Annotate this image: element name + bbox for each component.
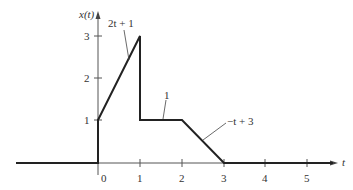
- x-axis-label: t: [342, 156, 346, 168]
- signal-line: [16, 36, 333, 163]
- annotation-leader: [203, 123, 226, 140]
- x-tick-label: 2: [179, 172, 185, 184]
- annotation-constant-1: 1: [164, 89, 170, 101]
- x-tick-label: 5: [304, 172, 310, 184]
- y-tick-label: 1: [84, 114, 90, 126]
- x-tick-label: 1: [137, 172, 143, 184]
- annotation-2t-plus-1: 2t + 1: [108, 17, 134, 29]
- annotation-leader: [163, 100, 166, 119]
- y-axis-arrow-icon: [96, 11, 101, 19]
- y-axis-label: x(t): [78, 8, 95, 21]
- signal-plot: 0 1 2 3 4 5 1 2 3 x(t) t 2t + 1 1 −t + 3: [0, 0, 353, 190]
- x-tick-label: 4: [262, 172, 268, 184]
- x-tick-label: 0: [101, 172, 107, 184]
- y-tick-label: 3: [84, 30, 90, 42]
- x-tick-label: 3: [221, 172, 227, 184]
- annotation-leader: [124, 30, 129, 60]
- annotation-minus-t-plus-3: −t + 3: [227, 115, 254, 127]
- y-tick-label: 2: [84, 72, 90, 84]
